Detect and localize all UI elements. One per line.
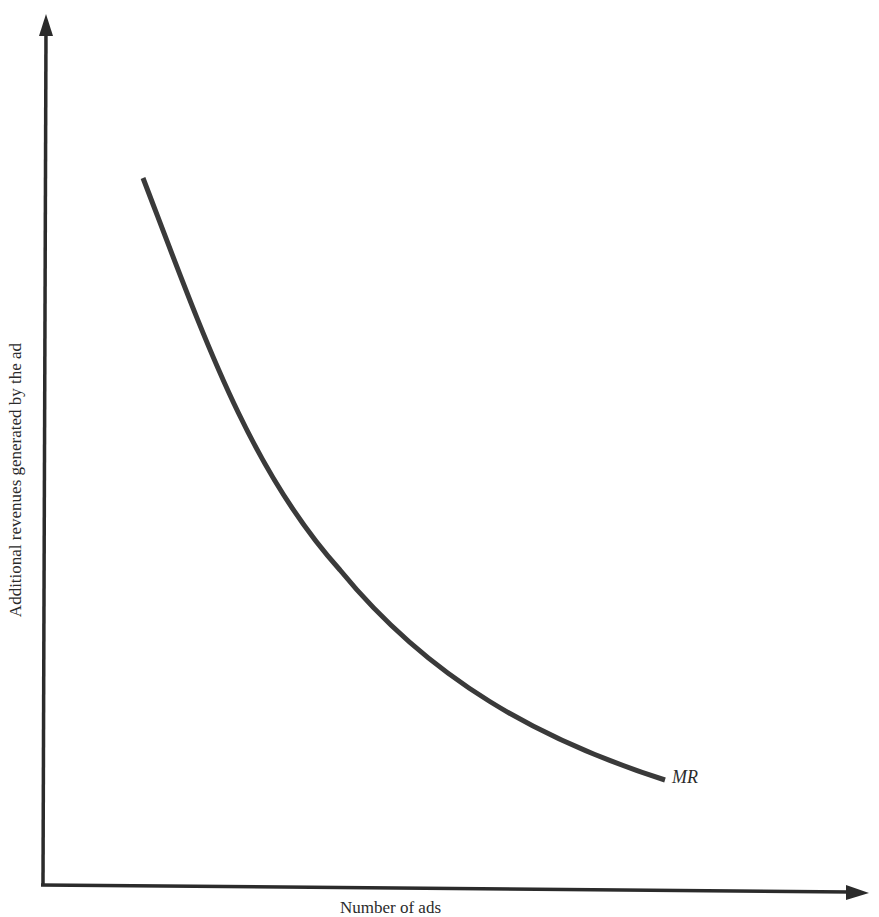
- y-axis-label: Additional revenues generated by the ad: [6, 343, 26, 617]
- x-axis-arrow-icon: [846, 885, 869, 900]
- x-axis-label: Number of ads: [340, 898, 441, 917]
- mr-curve: [143, 178, 665, 780]
- y-axis: [39, 14, 53, 884]
- mr-curve-label: MR: [672, 767, 698, 788]
- x-axis: [41, 885, 869, 900]
- y-axis-arrow-icon: [39, 14, 53, 36]
